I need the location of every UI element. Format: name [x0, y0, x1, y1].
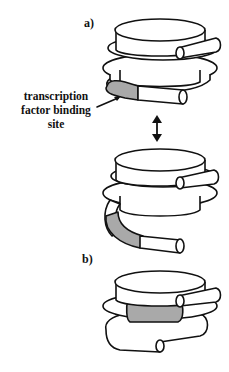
- nucleosome-figure: a) b) transcription factor binding site: [0, 0, 229, 372]
- double-arrow-icon: [152, 115, 162, 142]
- diagram-graphics: [0, 0, 229, 372]
- nucleosome-a-top: [97, 19, 221, 107]
- nucleosome-b: [103, 271, 221, 352]
- nucleosome-a-bottom: [103, 149, 219, 253]
